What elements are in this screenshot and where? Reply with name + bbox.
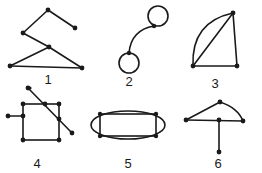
figure-1-label: 1	[44, 72, 51, 87]
figure-6-umbrella-graph: 6	[184, 100, 246, 171]
graph-figures-diagram: 1 2 3 4	[0, 0, 262, 173]
figure-4-square-graph: 4	[6, 86, 75, 171]
figure-2-label: 2	[125, 74, 132, 89]
figure-5-label: 5	[124, 156, 131, 171]
figure-3-label: 3	[211, 76, 218, 91]
figure-1-zigzag-graph: 1	[8, 8, 85, 90]
figure-2-loops-graph: 2	[119, 6, 168, 89]
figure-6-label: 6	[214, 156, 221, 171]
figure-3-quarter-arc-graph: 3	[191, 11, 240, 91]
figure-4-label: 4	[33, 156, 40, 171]
figure-5-ellipse-graph: 5	[91, 111, 165, 171]
